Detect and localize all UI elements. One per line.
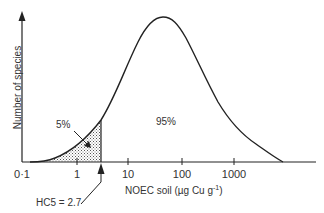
pct-5-label: 5% bbox=[56, 119, 70, 130]
x-axis-label-text: NOEC soil (µg Cu g bbox=[125, 185, 213, 196]
x-axis-label: NOEC soil (µg Cu g-1) bbox=[125, 184, 223, 196]
x-tick-label-100: 100 bbox=[173, 168, 191, 180]
pct-95-label: 95% bbox=[156, 116, 176, 127]
hc5-arrow-icon bbox=[98, 163, 105, 174]
x-tick-label-1: 1 bbox=[74, 168, 80, 180]
y-axis-label: Number of species bbox=[12, 38, 23, 138]
hc5-leader-line-diagonal bbox=[81, 182, 101, 204]
x-tick-label-1000: 1000 bbox=[222, 168, 246, 180]
hc5-label: HC5 = 2.7 bbox=[36, 197, 81, 208]
distribution-curve bbox=[30, 17, 283, 162]
y-axis-arrow-icon bbox=[19, 11, 26, 21]
x-tick-label-10: 10 bbox=[122, 168, 134, 180]
x-axis-label-close: ) bbox=[219, 185, 222, 196]
chart-canvas bbox=[0, 0, 324, 213]
x-tick-label-0.1: 0·1 bbox=[14, 168, 30, 180]
